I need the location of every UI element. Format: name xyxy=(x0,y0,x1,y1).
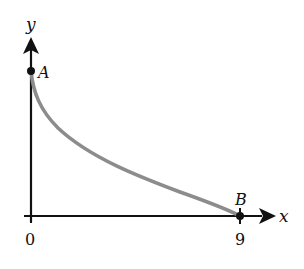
point-b-label: B xyxy=(234,190,247,209)
point-a xyxy=(27,67,35,75)
curve xyxy=(31,71,240,216)
point-a-label: A xyxy=(36,63,50,82)
x-axis-label: x xyxy=(279,206,289,226)
tick-label-0: 0 xyxy=(25,230,35,249)
tick-label-9: 9 xyxy=(235,230,245,249)
point-b xyxy=(236,212,244,220)
graph: y x A B 0 9 xyxy=(0,0,304,269)
y-axis-label: y xyxy=(25,14,36,34)
